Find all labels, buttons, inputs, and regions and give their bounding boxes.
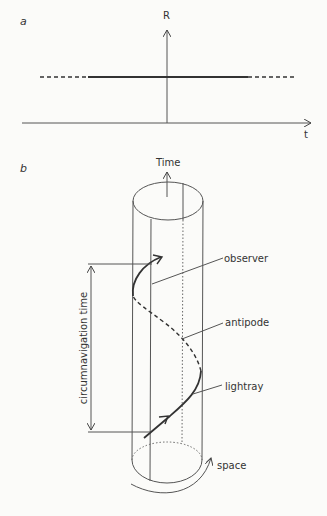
t-axis-label: t: [304, 129, 308, 140]
observer-leader: [152, 258, 223, 284]
lightray-upper: [133, 257, 161, 296]
figure: a t R b Time: [0, 0, 327, 516]
r-axis-label: R: [163, 10, 170, 21]
observer-worldline: [150, 219, 151, 481]
antipode-worldline: [182, 220, 183, 443]
space-rotation-arrow: [131, 458, 211, 493]
time-axis-label: Time: [155, 157, 180, 168]
space-label: space: [217, 460, 246, 471]
lightray-arrowhead-lower: [159, 416, 168, 424]
panel-a-label: a: [20, 15, 27, 28]
cylinder-top: [133, 182, 203, 220]
circumnavigation-time-label: circumnavigation time: [78, 292, 89, 404]
lightray-label: lightray: [225, 381, 263, 392]
observer-label: observer: [224, 253, 269, 264]
lightray-lower: [144, 371, 201, 438]
lightray-back: [133, 296, 201, 371]
panel-a: a t R: [20, 10, 311, 140]
cylinder-bottom-front: [132, 460, 202, 483]
cylinder-bottom-back: [132, 442, 202, 460]
cylinder-left-edge: [132, 201, 133, 460]
panel-b-label: b: [20, 162, 27, 175]
panel-b: b Time circumnavigation time obs: [20, 157, 269, 493]
antipode-label: antipode: [225, 317, 269, 328]
